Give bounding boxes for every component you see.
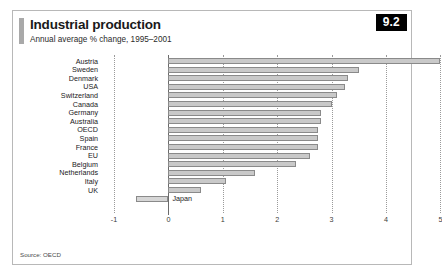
bar — [168, 135, 318, 141]
bar — [168, 187, 201, 193]
bar-label-usa: USA — [83, 83, 98, 90]
bar — [168, 110, 320, 116]
bar — [168, 178, 225, 184]
bar — [168, 84, 345, 90]
bar-label-germany: Germany — [68, 109, 98, 116]
figure-panel: Industrial production Annual average % c… — [12, 10, 412, 265]
figure-subtitle: Annual average % change, 1995–2001 — [30, 35, 172, 44]
bar — [168, 118, 320, 124]
bar-label-sweden: Sweden — [72, 66, 98, 73]
gridline--1 — [114, 55, 115, 213]
bar — [168, 101, 331, 107]
bar-label-austria: Austria — [76, 58, 98, 65]
gridline-4 — [386, 55, 387, 213]
bar-label-belgium: Belgium — [72, 161, 98, 168]
x-tick-4: 4 — [384, 215, 388, 224]
x-tick--1: -1 — [111, 215, 117, 224]
bars-canvas: -1012345Japan — [101, 55, 405, 225]
x-tick-5: 5 — [438, 215, 442, 224]
figure-number-badge: 9.2 — [376, 14, 407, 31]
bar — [168, 58, 440, 64]
bar-label-switzerland: Switzerland — [61, 92, 98, 99]
bar — [168, 127, 318, 133]
x-tick-3: 3 — [330, 215, 334, 224]
bar-label-australia: Australia — [70, 118, 98, 125]
bar-label-france: France — [76, 144, 98, 151]
bar — [168, 92, 337, 98]
bar-label-netherlands: Netherlands — [59, 169, 98, 176]
x-tick-2: 2 — [275, 215, 279, 224]
bar-label-eu: EU — [88, 152, 98, 159]
bar — [168, 161, 296, 167]
title-accent-bar — [19, 18, 24, 44]
bar — [168, 67, 358, 73]
chart-plot-area: AustriaSwedenDenmarkUSASwitzerlandCanada… — [13, 55, 413, 225]
bar-label-denmark: Denmark — [69, 75, 98, 82]
bar-label-japan: Japan — [172, 195, 192, 202]
bar — [168, 153, 309, 159]
bar — [168, 170, 255, 176]
bar-label-italy: Italy — [85, 178, 98, 185]
gridline-5 — [440, 55, 441, 213]
x-tick-0: 0 — [166, 215, 170, 224]
bar — [136, 196, 169, 202]
bar-label-spain: Spain — [80, 135, 98, 142]
x-tick-1: 1 — [221, 215, 225, 224]
bar-label-canada: Canada — [73, 101, 98, 108]
bar-label-oecd: OECD — [77, 126, 98, 133]
bar-label-uk: UK — [88, 187, 98, 194]
bar — [168, 75, 348, 81]
page-title: Industrial production — [30, 17, 161, 32]
category-axis-labels: AustriaSwedenDenmarkUSASwitzerlandCanada… — [13, 55, 101, 213]
source-note: Source: OECD — [20, 251, 61, 258]
bar — [168, 144, 318, 150]
